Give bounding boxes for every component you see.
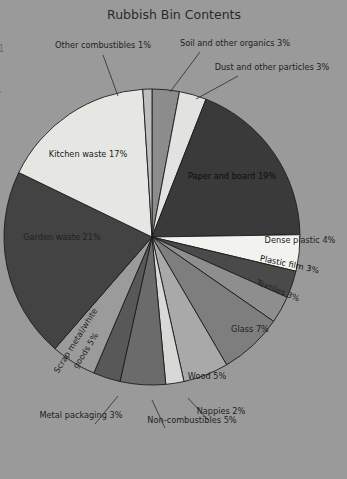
slice-label-other-combustibles: Other combustibles 1% [55,40,151,50]
slice-label-glass: Glass 7% [231,324,269,334]
slice-label-dense-plastic: Dense plastic 4% [265,235,336,245]
slice-label-garden-waste: Garden waste 21% [23,232,101,242]
slice-label-soil-and-other-organics: Soil and other organics 3% [180,38,290,48]
slice-label-metal-packaging: Metal packaging 3% [40,410,123,420]
chart-canvas: 1 . Rubbish Bin Contents Paper and board… [0,0,347,479]
slice-label-kitchen-waste: Kitchen waste 17% [49,149,128,159]
page-edge-mark-top: 1 [0,43,4,54]
pie-chart: Rubbish Bin Contents Paper and board 19%… [0,0,347,479]
label-leader-line [170,52,200,92]
label-leader-line [196,76,238,99]
slice-label-wood: Wood 5% [188,371,227,381]
slice-label-non-combustibles: Non-combustibles 5% [147,415,236,425]
page-edge-mark-bottom: . [0,84,2,95]
slice-label-dust-and-other-particles: Dust and other particles 3% [215,62,330,72]
label-leader-line [103,55,118,96]
chart-title: Rubbish Bin Contents [107,7,241,22]
slice-label-paper-and-board: Paper and board 19% [188,171,276,181]
